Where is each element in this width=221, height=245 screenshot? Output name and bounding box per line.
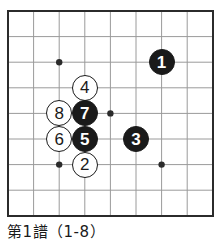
stone-number: 3 [131, 130, 140, 147]
stone-number: 5 [80, 130, 89, 147]
go-board: 12345678 [0, 0, 221, 220]
diagram-caption: 第1譜（1-8） [7, 222, 105, 242]
star-point-bottom-left [56, 161, 62, 167]
stone-1-black[interactable]: 1 [149, 49, 175, 75]
stone-7-black[interactable]: 7 [72, 100, 98, 126]
stone-6-white[interactable]: 6 [46, 126, 72, 152]
go-diagram-page: 12345678 第1譜（1-8） [0, 0, 221, 245]
go-board-grid [0, 0, 221, 220]
star-point-top-left [56, 59, 62, 65]
stone-number: 6 [54, 130, 63, 147]
stone-5-black[interactable]: 5 [72, 126, 98, 152]
stone-number: 4 [80, 79, 89, 96]
star-point-bottom-right [158, 161, 164, 167]
stone-number: 8 [54, 104, 63, 121]
stone-3-black[interactable]: 3 [123, 126, 149, 152]
star-point-center [107, 110, 113, 116]
stone-4-white[interactable]: 4 [72, 75, 98, 101]
stone-2-white[interactable]: 2 [72, 152, 98, 178]
stone-number: 7 [80, 104, 89, 121]
stone-number: 1 [157, 53, 166, 70]
stone-number: 2 [80, 156, 89, 173]
